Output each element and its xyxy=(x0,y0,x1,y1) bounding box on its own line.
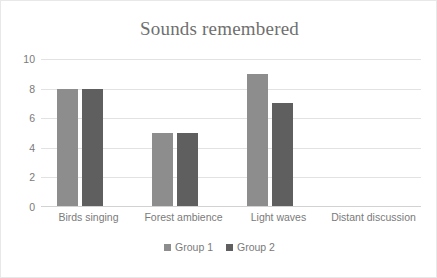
plot-area xyxy=(41,59,421,207)
x-axis-line xyxy=(41,206,421,207)
legend-entry[interactable]: Group 2 xyxy=(226,241,275,253)
bar-group xyxy=(136,59,231,207)
x-axis-category-labels: Birds singingForest ambienceLight wavesD… xyxy=(41,211,421,229)
legend-label: Group 1 xyxy=(175,241,213,253)
bar-chart-container: Sounds remembered 0246810 Birds singingF… xyxy=(0,0,437,278)
y-tick-label: 2 xyxy=(1,171,35,183)
chart-title: Sounds remembered xyxy=(1,18,437,40)
y-tick-label: 0 xyxy=(1,201,35,213)
bar xyxy=(272,103,293,207)
bar-group xyxy=(41,59,136,207)
y-tick-label: 6 xyxy=(1,112,35,124)
bar-group xyxy=(326,59,421,207)
x-axis-label: Distant discussion xyxy=(326,211,421,223)
chart-legend: Group 1Group 2 xyxy=(1,241,437,253)
x-axis-label: Birds singing xyxy=(41,211,136,223)
legend-swatch-icon xyxy=(164,244,171,251)
legend-label: Group 2 xyxy=(237,241,275,253)
bar xyxy=(82,89,103,207)
legend-swatch-icon xyxy=(226,244,233,251)
legend-entry[interactable]: Group 1 xyxy=(164,241,213,253)
bar-group xyxy=(231,59,326,207)
bar xyxy=(177,133,198,207)
bar xyxy=(152,133,173,207)
x-axis-label: Light waves xyxy=(231,211,326,223)
y-tick-label: 4 xyxy=(1,142,35,154)
bar xyxy=(57,89,78,207)
bar xyxy=(247,74,268,207)
y-axis-tick-labels: 0246810 xyxy=(1,59,35,207)
x-axis-label: Forest ambience xyxy=(136,211,231,223)
y-tick-label: 8 xyxy=(1,83,35,95)
y-tick-label: 10 xyxy=(1,53,35,65)
